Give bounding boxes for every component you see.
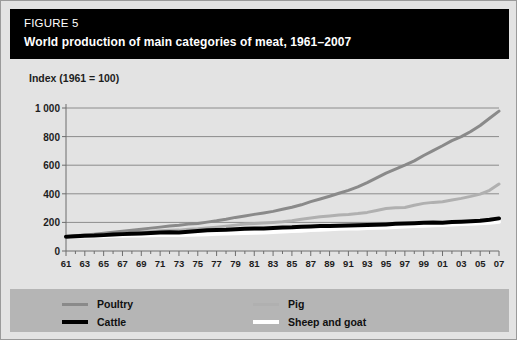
y-axis-tick-label: 0 [14,246,60,257]
x-axis-tick-label: 87 [301,258,321,269]
legend-swatch-icon [253,320,279,324]
x-axis-tick-label: 01 [433,258,453,269]
x-axis-tick-label: 85 [282,258,302,269]
x-axis-tick-label: 65 [94,258,114,269]
y-axis-tick-label: 600 [14,160,60,171]
legend-swatch-icon [62,320,88,324]
y-axis-tick-label: 200 [14,217,60,228]
legend-swatch-icon [253,303,279,306]
series-line-poultry [66,111,499,237]
legend-label: Poultry [97,298,133,310]
x-axis-tick-label: 91 [338,258,358,269]
chart-legend: PoultryPigCattleSheep and goat [10,289,509,332]
figure-label: FIGURE 5 [24,16,509,31]
figure-header: FIGURE 5 World production of main catego… [10,9,509,59]
x-axis-tick-label: 63 [75,258,95,269]
x-axis-tick-label: 73 [169,258,189,269]
x-axis-tick-label: 03 [451,258,471,269]
x-axis-tick-label: 99 [414,258,434,269]
legend-item-poultry[interactable]: Poultry [62,297,133,311]
x-axis-tick-label: 61 [56,258,76,269]
figure-title: World production of main categories of m… [24,34,509,50]
x-axis-tick-label: 79 [225,258,245,269]
x-axis-tick-label: 75 [188,258,208,269]
chart-panel: Index (1961 = 100) 02004006008001 000616… [10,59,509,289]
x-axis-tick-label: 83 [263,258,283,269]
y-axis-tick-label: 800 [14,131,60,142]
x-axis-tick-label: 69 [131,258,151,269]
x-axis-tick-label: 77 [207,258,227,269]
x-axis-tick-label: 95 [376,258,396,269]
line-chart-svg [10,59,509,289]
legend-label: Cattle [97,316,126,328]
x-axis-tick-label: 67 [112,258,132,269]
legend-item-sheep-and-goat[interactable]: Sheep and goat [253,315,366,329]
y-axis-tick-label: 400 [14,188,60,199]
legend-swatch-icon [62,303,88,306]
x-axis-tick-label: 93 [357,258,377,269]
x-axis-tick-label: 89 [320,258,340,269]
plot-area: 02004006008001 0006163656769717375777981… [10,59,509,289]
x-axis-tick-label: 05 [470,258,490,269]
x-axis-tick-label: 71 [150,258,170,269]
legend-label: Sheep and goat [288,316,366,328]
y-axis-tick-label: 1 000 [14,103,60,114]
x-axis-tick-label: 97 [395,258,415,269]
legend-item-cattle[interactable]: Cattle [62,315,126,329]
x-axis-tick-label: 81 [244,258,264,269]
x-axis-tick-label: 07 [489,258,509,269]
legend-label: Pig [288,298,304,310]
legend-item-pig[interactable]: Pig [253,297,304,311]
figure-container: FIGURE 5 World production of main catego… [0,0,517,340]
